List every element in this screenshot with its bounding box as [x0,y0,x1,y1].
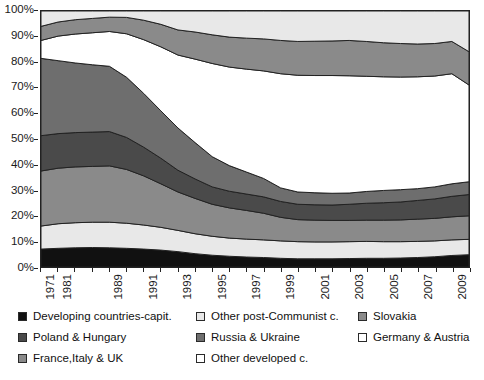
y-axis-tick-mark [34,139,38,140]
legend-label: Russia & Ukraine [211,332,300,344]
chart-page: 100%90%80%70%60%50%40%30%20%10%0% 197119… [0,0,484,380]
x-axis-tick-label: 1997 [251,274,263,300]
x-axis-tick-mark [281,268,282,272]
y-axis-tick-mark [34,62,38,63]
legend-item[interactable]: Germany & Austria [358,327,484,348]
legend-column-1: Developing countries-capit.Poland & Hung… [18,306,194,369]
x-axis-tick-label: 1991 [148,274,160,300]
y-axis-tick-label: 90% [11,30,34,42]
legend-label: Poland & Hungary [33,332,126,344]
legend-item[interactable]: Slovakia [358,306,484,327]
x-axis-tick-mark [264,268,265,272]
x-axis-tick-label: 2005 [389,274,401,300]
x-axis-tick-mark [332,268,333,272]
legend-item[interactable]: France,Italy & UK [18,348,194,369]
y-axis-tick-label: 30% [11,185,34,197]
y-axis-tick-label: 40% [11,159,34,171]
x-axis-tick-mark [40,268,41,272]
x-axis-tick-mark [350,268,351,272]
x-axis-tick-label: 1995 [217,274,229,300]
y-axis-tick-mark [34,242,38,243]
x-axis-tick-mark [212,268,213,272]
x-axis-tick-mark [367,268,368,272]
x-axis-tick-mark [195,268,196,272]
y-axis-tick-label: 0% [17,262,34,274]
x-axis-tick-mark [57,268,58,272]
x-axis-tick-mark [143,268,144,272]
x-axis-tick-mark [178,268,179,272]
legend-swatch-icon [18,333,27,342]
x-axis-tick-label: 1981 [62,274,74,300]
legend-label: Other post-Communist c. [211,311,339,323]
y-axis-tick-label: 10% [11,236,34,248]
y-axis-tick-label: 60% [11,107,34,119]
legend-column-2: Other post-Communist c.Russia & UkraineO… [196,306,356,369]
x-axis-tick-label: 2007 [423,274,435,300]
legend-label: Developing countries-capit. [33,311,172,323]
y-axis-tick-label: 50% [11,133,34,145]
x-axis-tick-mark [229,268,230,272]
x-axis-tick-mark [298,268,299,272]
legend-item[interactable]: Russia & Ukraine [196,327,356,348]
x-axis-tick-mark [92,268,93,272]
y-axis-tick-mark [34,36,38,37]
y-axis-tick-mark [34,113,38,114]
legend-label: Germany & Austria [373,332,470,344]
stacked-area-chart [41,11,469,267]
x-axis-tick-label: 2009 [457,274,469,300]
y-axis-tick-mark [34,165,38,166]
x-axis-tick-label: 1993 [182,274,194,300]
legend-swatch-icon [196,354,205,363]
legend-label: Slovakia [373,311,416,323]
x-axis-tick-label: 2001 [320,274,332,300]
legend-swatch-icon [196,312,205,321]
x-axis-tick-mark [126,268,127,272]
x-axis-tick-mark [384,268,385,272]
y-axis-tick-label: 20% [11,211,34,223]
plot-area [40,10,470,268]
y-axis-tick-mark [34,10,38,11]
legend-swatch-icon [358,333,367,342]
x-axis-tick-mark [418,268,419,272]
x-axis-tick-label: 1989 [113,274,125,300]
y-axis-labels: 100%90%80%70%60%50%40%30%20%10%0% [0,0,38,300]
x-axis-tick-mark [109,268,110,272]
x-axis-tick-label: 1999 [285,274,297,300]
y-axis-tick-mark [34,191,38,192]
x-axis-tick-mark [74,268,75,272]
x-axis-tick-mark [160,268,161,272]
x-axis-tick-mark [401,268,402,272]
x-axis-tick-mark [470,268,471,272]
chart-plot-wrapper: 100%90%80%70%60%50%40%30%20%10%0% 197119… [0,0,484,300]
legend-item[interactable]: Other post-Communist c. [196,306,356,327]
legend-swatch-icon [18,354,27,363]
chart-legend: Developing countries-capit.Poland & Hung… [0,306,484,380]
y-axis-tick-label: 100% [5,4,34,16]
y-axis-tick-label: 80% [11,56,34,68]
x-axis-tick-label: 1971 [45,274,57,300]
legend-swatch-icon [358,312,367,321]
legend-column-3: SlovakiaGermany & Austria [358,306,484,348]
x-axis-tick-mark [315,268,316,272]
y-axis-tick-mark [34,268,38,269]
x-axis-tick-mark [453,268,454,272]
x-axis-tick-mark [246,268,247,272]
x-axis: 1971198119891991199319951997199920012003… [40,268,470,302]
x-axis-tick-mark [436,268,437,272]
y-axis-tick-mark [34,87,38,88]
x-axis-tick-label: 2003 [354,274,366,300]
legend-swatch-icon [196,333,205,342]
y-axis-tick-mark [34,216,38,217]
legend-swatch-icon [18,312,27,321]
legend-label: France,Italy & UK [33,353,123,365]
legend-item[interactable]: Developing countries-capit. [18,306,194,327]
legend-item[interactable]: Poland & Hungary [18,327,194,348]
legend-label: Other developed c. [211,353,308,365]
legend-item[interactable]: Other developed c. [196,348,356,369]
y-axis-tick-label: 70% [11,82,34,94]
